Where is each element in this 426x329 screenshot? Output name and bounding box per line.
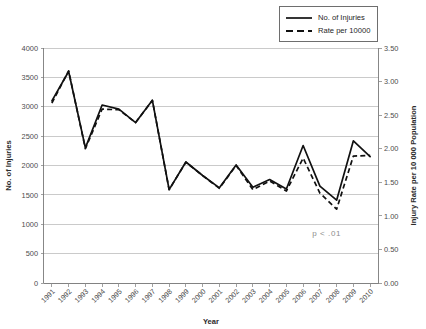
x-tick-label: 1997 [140, 287, 158, 305]
y-tick-label: 2500 [22, 132, 38, 141]
data-series [52, 71, 370, 209]
legend-label-injuries: No. of Injuries [318, 13, 365, 22]
y2-tick-label: 1.00 [384, 212, 398, 221]
y2-tick-label: 2.00 [384, 144, 398, 153]
x-tick-label: 1995 [106, 287, 124, 305]
chart-legend: No. of Injuries Rate per 10000 [279, 6, 378, 42]
axes [44, 48, 379, 287]
y-tick-label: 0 [34, 279, 38, 288]
x-tick-label: 2000 [190, 287, 208, 305]
legend-item-rate: Rate per 10000 [286, 24, 370, 37]
chart-canvas: 05001000150020002500300035004000 0.000.5… [0, 0, 426, 329]
x-axis-tick-labels: 1991199219931994199519961997199819992000… [39, 287, 375, 305]
x-tick-label: 1999 [173, 287, 191, 305]
y-tick-label: 4000 [22, 44, 38, 53]
x-tick-label: 2006 [290, 287, 308, 305]
y-axis-title: No. of Injuries [4, 140, 13, 191]
y-tick-label: 3000 [22, 102, 38, 111]
x-tick-label: 1994 [89, 287, 107, 305]
gridlines [41, 48, 382, 283]
x-tick-label: 2004 [257, 287, 275, 305]
legend-item-injuries: No. of Injuries [286, 11, 370, 24]
x-tick-label: 2010 [357, 287, 375, 305]
x-tick-label: 2009 [341, 287, 359, 305]
chart-annotations: p < .01 [312, 229, 341, 238]
x-tick-label: 2001 [207, 287, 225, 305]
y-tick-label: 500 [26, 249, 38, 258]
x-tick-label: 1991 [39, 287, 57, 305]
y-tick-label: 1500 [22, 191, 38, 200]
injury-trend-chart: 05001000150020002500300035004000 0.000.5… [0, 0, 426, 329]
x-tick-label: 1996 [123, 287, 141, 305]
x-tick-label: 2003 [240, 287, 258, 305]
y2-axis-tick-labels: 0.000.501.001.502.002.503.003.50 [384, 44, 398, 288]
y2-axis-title: Injury Rate per 10 000 Population [409, 105, 418, 225]
y-axis-tick-labels: 05001000150020002500300035004000 [22, 44, 38, 288]
x-tick-label: 2005 [274, 287, 292, 305]
y2-tick-label: 2.50 [384, 111, 398, 120]
x-axis-title: Year [203, 317, 219, 326]
significance-annotation: p < .01 [312, 229, 341, 238]
dashed-line-icon [286, 26, 312, 36]
x-tick-label: 2002 [223, 287, 241, 305]
y2-tick-label: 3.00 [384, 77, 398, 86]
y2-tick-label: 1.50 [384, 178, 398, 187]
x-tick-label: 1998 [156, 287, 174, 305]
x-tick-label: 2007 [307, 287, 325, 305]
y2-tick-label: 0.00 [384, 279, 398, 288]
y2-tick-label: 3.50 [384, 44, 398, 53]
solid-line-icon [286, 13, 312, 23]
y2-tick-label: 0.50 [384, 245, 398, 254]
x-tick-label: 1993 [73, 287, 91, 305]
y-tick-label: 3500 [22, 73, 38, 82]
y-tick-label: 2000 [22, 161, 38, 170]
y-tick-label: 1000 [22, 220, 38, 229]
x-tick-label: 2008 [324, 287, 342, 305]
x-tick-label: 1992 [56, 287, 74, 305]
legend-label-rate: Rate per 10000 [318, 26, 370, 35]
